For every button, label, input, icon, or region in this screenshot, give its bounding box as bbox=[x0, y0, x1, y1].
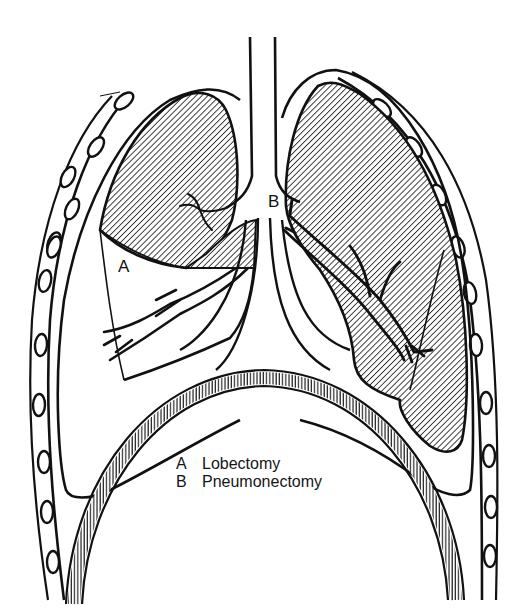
diaphragm-inner bbox=[82, 386, 448, 604]
legend-item-pneumonectomy: B Pneumonectomy bbox=[176, 473, 322, 491]
legend-key: B bbox=[176, 473, 202, 491]
label-b: B bbox=[268, 192, 279, 211]
legend-key: A bbox=[176, 455, 202, 473]
legend-text: Pneumonectomy bbox=[202, 473, 322, 491]
label-a: A bbox=[118, 257, 130, 276]
legend: A Lobectomy B Pneumonectomy bbox=[176, 455, 322, 491]
diaphragm bbox=[74, 378, 456, 604]
legend-item-lobectomy: A Lobectomy bbox=[176, 455, 322, 473]
left-bronchi bbox=[104, 268, 248, 360]
thorax-diagram: A B bbox=[0, 0, 527, 608]
left-lung-upper-hatched bbox=[100, 93, 237, 268]
left-lower-lobe bbox=[124, 268, 254, 380]
legend-text: Lobectomy bbox=[202, 455, 280, 473]
